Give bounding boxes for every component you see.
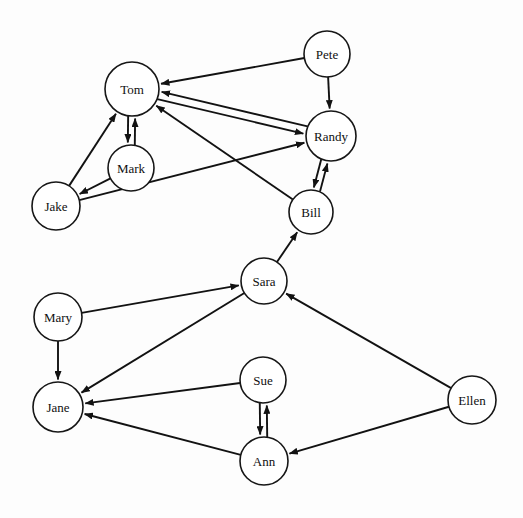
edge-bill-to-tom xyxy=(156,106,293,200)
node-pete[interactable]: Pete xyxy=(304,31,350,77)
node-ann[interactable]: Ann xyxy=(240,437,288,485)
node-label-jane: Jane xyxy=(46,400,69,415)
edge-ann-to-jane xyxy=(85,414,241,455)
graph-canvas: PeteTomRandyMarkJakeBillSaraMarySueEllen… xyxy=(0,0,523,518)
node-ellen[interactable]: Ellen xyxy=(448,376,496,424)
nodes-layer: PeteTomRandyMarkJakeBillSaraMarySueEllen… xyxy=(32,31,496,485)
node-label-ellen: Ellen xyxy=(458,393,486,408)
node-label-mary: Mary xyxy=(44,310,73,325)
node-label-tom: Tom xyxy=(120,82,144,97)
edge-sara-to-bill xyxy=(277,232,297,262)
edge-mark-to-jake xyxy=(80,178,111,194)
edge-tom-to-randy xyxy=(157,99,303,133)
node-label-ann: Ann xyxy=(253,454,276,469)
edge-pete-to-randy xyxy=(328,77,330,109)
edge-randy-to-tom xyxy=(162,92,308,126)
edge-ellen-to-sara xyxy=(286,294,451,388)
edge-randy-to-bill xyxy=(314,159,321,187)
network-graph-svg: PeteTomRandyMarkJakeBillSaraMarySueEllen… xyxy=(0,0,523,518)
node-randy[interactable]: Randy xyxy=(306,111,356,161)
node-label-mark: Mark xyxy=(117,161,146,176)
edge-ellen-to-ann xyxy=(289,407,449,454)
node-label-pete: Pete xyxy=(316,47,339,62)
node-bill[interactable]: Bill xyxy=(289,190,333,234)
node-label-sara: Sara xyxy=(252,274,275,289)
node-mark[interactable]: Mark xyxy=(108,145,154,191)
node-sue[interactable]: Sue xyxy=(240,357,286,403)
node-mary[interactable]: Mary xyxy=(34,293,82,341)
edge-bill-to-randy xyxy=(320,163,327,191)
node-label-sue: Sue xyxy=(253,373,273,388)
node-label-bill: Bill xyxy=(301,205,321,220)
node-jane[interactable]: Jane xyxy=(33,382,83,432)
edge-sue-to-jane xyxy=(85,383,240,403)
node-label-randy: Randy xyxy=(314,129,348,144)
edge-mary-to-sara xyxy=(82,285,239,312)
node-label-jake: Jake xyxy=(44,199,67,214)
node-jake[interactable]: Jake xyxy=(32,182,80,230)
edge-pete-to-tom xyxy=(161,58,304,84)
node-sara[interactable]: Sara xyxy=(241,258,287,304)
node-tom[interactable]: Tom xyxy=(105,62,159,116)
